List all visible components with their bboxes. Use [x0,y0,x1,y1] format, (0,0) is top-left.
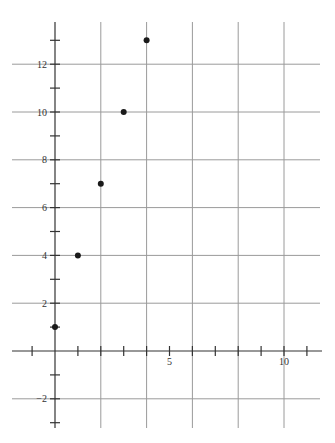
data-point [121,109,127,115]
y-tick-label: 6 [42,202,47,213]
y-tick-label: −2 [36,393,47,404]
data-point [52,324,58,330]
y-tick-label: 4 [42,250,47,261]
y-tick-label: 8 [42,154,47,165]
tick-labels: 510−224681012 [36,59,289,405]
scatter-chart: 510−224681012 [0,0,335,443]
y-tick-label: 10 [37,107,47,118]
y-tick-label: 12 [37,59,47,70]
axes [12,22,322,428]
data-point [98,181,104,187]
x-tick-label: 10 [279,356,289,367]
y-tick-label: 2 [42,298,47,309]
x-tick-label: 5 [167,356,172,367]
data-point [75,252,81,258]
grid-lines [12,22,320,428]
data-point [144,37,150,43]
